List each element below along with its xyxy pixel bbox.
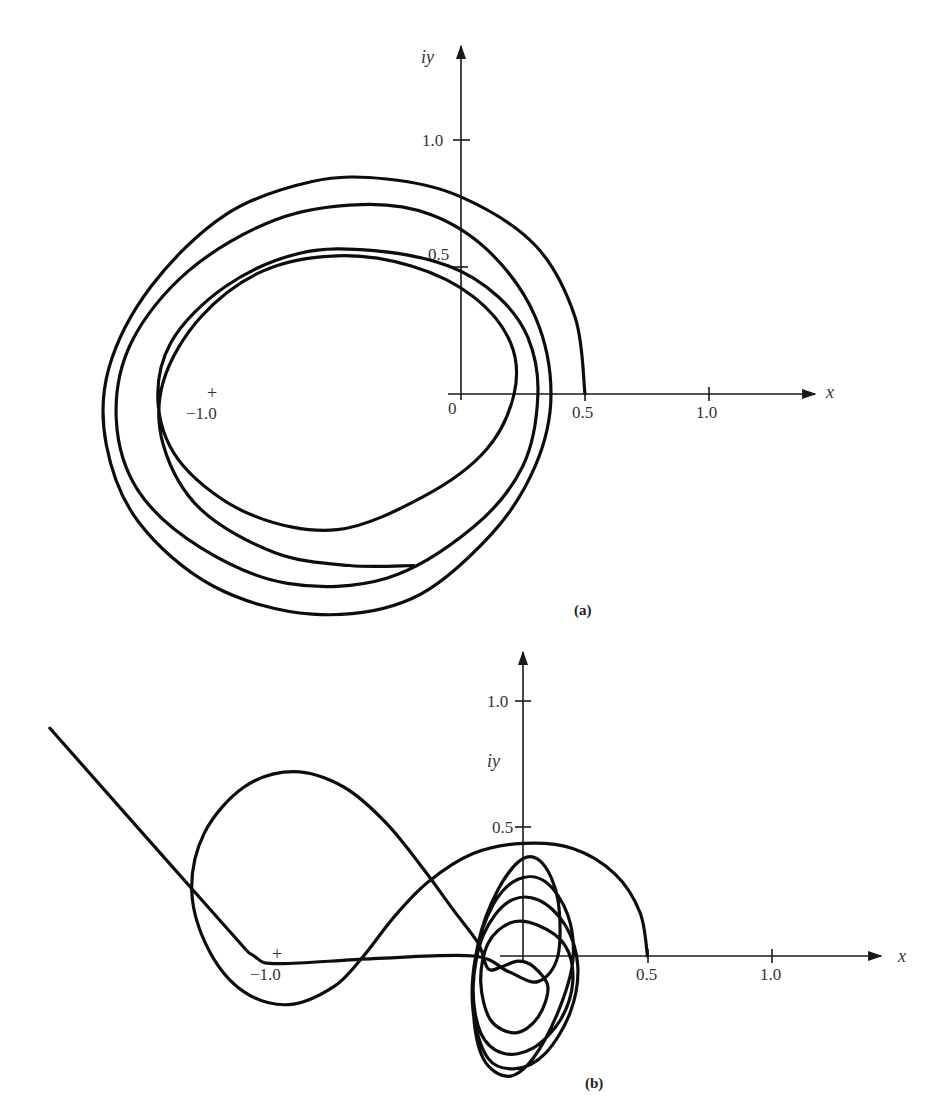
plot-b-ytick-label-0.5: 0.5: [492, 818, 513, 837]
plot-a-trajectory: [103, 177, 585, 615]
plot-b-x-label: x: [897, 946, 906, 966]
plot-a-y-label: iy: [421, 47, 434, 67]
plot-a-x-label: x: [825, 382, 834, 402]
plot-b-critical-point-label: −1.0: [250, 965, 281, 984]
figure: iy 1.0 0.5 0 0.5 1.0 x + −1.0 (a) 1.0 iy…: [0, 0, 943, 1118]
plot-b-xtick-label-0.5: 0.5: [636, 965, 657, 984]
plot-a-origin-label: 0: [448, 399, 457, 418]
plot-b: 1.0 iy 0.5 0.5 1.0 x + −1.0 (b): [50, 652, 906, 1092]
plot-a-caption: (a): [574, 602, 592, 619]
plot-b-ytick-label-1.0: 1.0: [487, 692, 508, 711]
plot-a-critical-point-label: −1.0: [186, 404, 217, 423]
plot-a: iy 1.0 0.5 0 0.5 1.0 x + −1.0 (a): [103, 46, 834, 619]
plot-b-y-label: iy: [487, 751, 500, 771]
plot-a-xtick-label-0.5: 0.5: [572, 403, 593, 422]
plot-a-ytick-label-1.0: 1.0: [422, 131, 443, 150]
plot-b-trajectory: [50, 728, 648, 1076]
plot-a-critical-point-marker: +: [207, 383, 217, 403]
plot-a-xtick-label-1.0: 1.0: [696, 403, 717, 422]
plot-b-caption: (b): [585, 1075, 603, 1092]
plot-b-xtick-label-1.0: 1.0: [760, 965, 781, 984]
plot-b-critical-point-marker: +: [272, 944, 282, 964]
